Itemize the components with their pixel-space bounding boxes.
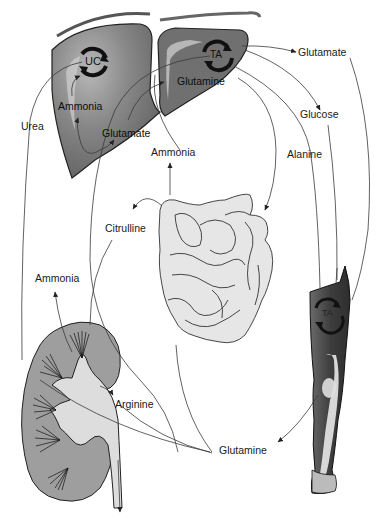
uc-label: UC [85,56,101,67]
urea-label: Urea [21,121,44,132]
kidney [22,322,122,508]
liver-glutamate-label: Glutamate [102,128,150,139]
glucose-label: Glucose [300,109,339,120]
arginine-label: Arginine [115,399,154,410]
alanine-label: Alanine [287,149,322,160]
liver-ta-label: TA [210,50,222,60]
liver-ammonia-label: Ammonia [58,101,102,112]
small-intestine [159,194,273,343]
muscle-ta-label: TA [322,309,333,318]
top-glutamate-label: Glutamate [298,47,346,58]
bottom-glutamine-label: Glutamine [219,445,267,456]
liver-glutamine-label: Glutamine [177,76,225,87]
kidney-ammonia-label: Ammonia [35,273,79,284]
gut-ammonia-label: Ammonia [151,147,195,158]
citrulline-label: Citrulline [105,223,146,234]
